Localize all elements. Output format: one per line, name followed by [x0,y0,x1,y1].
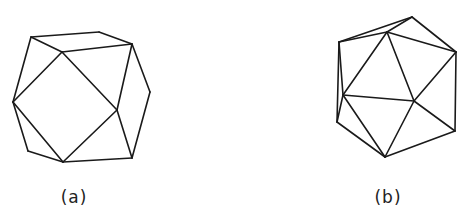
edge-U-W [414,101,455,131]
edge-P-S [412,17,456,52]
caption-b: (b) [374,187,401,207]
edge-Q-S [387,32,456,52]
edge-E-I [13,102,63,162]
edge-C-F [117,44,132,110]
edge-V-X [337,122,385,157]
edge-Q-T [343,32,387,95]
edge-E-J [13,102,28,151]
edge-B-C [99,32,132,44]
polyhedron-a [13,32,150,162]
edge-F-H [117,110,132,158]
caption-a: (a) [61,187,88,207]
edge-D-F [62,52,117,110]
edge-W-X [385,131,455,157]
edge-A-B [31,32,99,37]
polyhedron-b [337,17,456,157]
edge-F-I [63,110,117,162]
edge-T-X [343,95,385,157]
edge-R-V [337,42,339,122]
edge-S-U [414,52,456,101]
figure-canvas [0,0,470,216]
edge-G-H [132,92,150,158]
edge-T-U [343,95,414,101]
edge-A-D [31,37,62,52]
edge-S-W [455,52,456,131]
edge-C-G [132,44,150,92]
edge-R-P [339,17,412,42]
edge-R-T [339,42,343,95]
edge-Q-U [387,32,414,101]
edge-D-C [62,44,132,52]
edge-I-H [63,158,132,162]
